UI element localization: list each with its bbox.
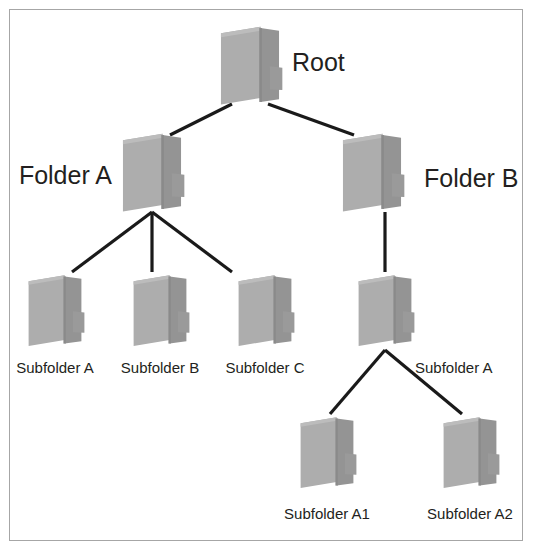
folder-icon-graphic: [235, 272, 295, 348]
folder-icon-graphic: [297, 414, 357, 490]
folder-icon-graphic: [339, 131, 405, 213]
connector-line: [152, 212, 232, 272]
folder-label-subfolder-a: Subfolder A: [16, 360, 94, 375]
folder-label-subfolder-c: Subfolder C: [225, 360, 304, 375]
folder-icon-root[interactable]: [217, 24, 283, 106]
folder-label-subfolder-a-b: Subfolder A: [415, 360, 493, 375]
folder-icon-subfolder-c[interactable]: [235, 272, 295, 348]
connector-line: [72, 212, 152, 272]
folder-label-folder-a: Folder A: [19, 163, 112, 188]
folder-icon-graphic: [355, 272, 415, 348]
folder-label-subfolder-a1: Subfolder A1: [284, 506, 370, 521]
folder-icon-folder-a[interactable]: [119, 131, 185, 213]
folder-icon-graphic: [119, 131, 185, 213]
folder-icon-subfolder-a-b[interactable]: [355, 272, 415, 348]
folder-icon-subfolder-b[interactable]: [130, 272, 190, 348]
connector-line: [330, 350, 385, 414]
folder-icon-graphic: [25, 272, 85, 348]
diagram-canvas: RootFolder AFolder BSubfolder ASubfolder…: [0, 0, 533, 551]
folder-icon-graphic: [130, 272, 190, 348]
folder-icon-subfolder-a1[interactable]: [297, 414, 357, 490]
folder-label-root: Root: [292, 50, 345, 75]
folder-icon-folder-b[interactable]: [339, 131, 405, 213]
folder-label-folder-b: Folder B: [424, 166, 518, 191]
folder-icon-graphic: [440, 414, 500, 490]
folder-label-subfolder-a2: Subfolder A2: [427, 506, 513, 521]
folder-icon-subfolder-a[interactable]: [25, 272, 85, 348]
folder-icon-subfolder-a2[interactable]: [440, 414, 500, 490]
folder-icon-graphic: [217, 24, 283, 106]
folder-label-subfolder-b: Subfolder B: [121, 360, 199, 375]
